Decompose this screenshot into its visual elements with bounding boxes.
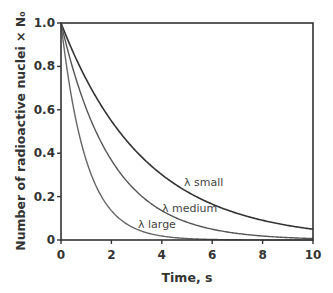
y-tick-label: 0 xyxy=(47,233,55,247)
label-lambda-small: λ small xyxy=(184,176,223,189)
label-lambda-large: λ large xyxy=(138,218,176,231)
x-tick-label: 6 xyxy=(208,248,216,262)
y-tick-label: 0.4 xyxy=(34,146,55,160)
x-axis-label: Time, s xyxy=(162,270,213,285)
y-tick-label: 0.8 xyxy=(34,59,55,73)
y-axis-ticks: 00.20.40.60.81.0 xyxy=(34,16,61,247)
y-tick-label: 0.6 xyxy=(34,103,55,117)
x-tick-label: 10 xyxy=(305,248,322,262)
decay-chart: 00.20.40.60.81.0 0246810 Time, s Number … xyxy=(0,0,333,293)
y-axis-label: Number of radioactive nuclei × N₀ xyxy=(13,11,28,251)
y-tick-label: 0.2 xyxy=(34,190,55,204)
label-lambda-medium: λ medium xyxy=(162,202,217,215)
x-axis-ticks: 0246810 xyxy=(57,240,322,262)
x-tick-label: 8 xyxy=(258,248,266,262)
x-tick-label: 0 xyxy=(57,248,65,262)
y-tick-label: 1.0 xyxy=(34,16,55,30)
curve-small xyxy=(61,23,313,229)
x-tick-label: 4 xyxy=(158,248,166,262)
x-tick-label: 2 xyxy=(107,248,115,262)
